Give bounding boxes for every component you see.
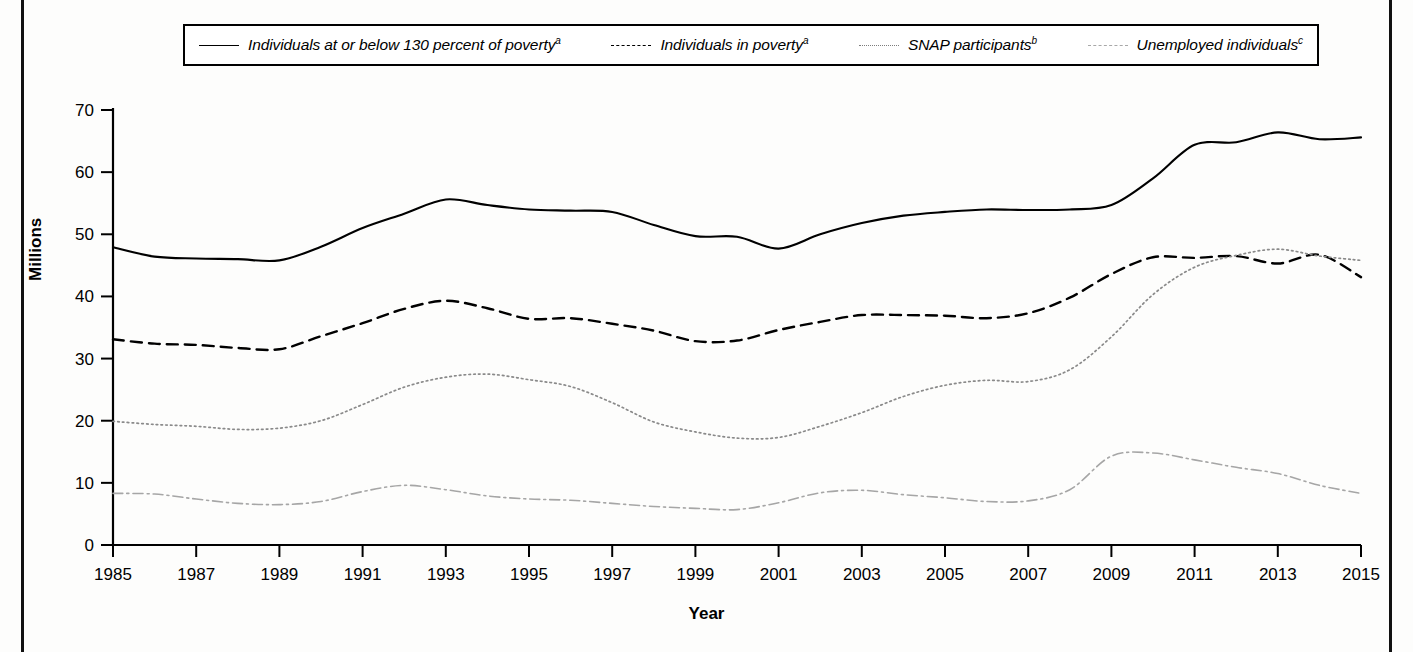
y-tick-label-0: 0 [85, 536, 94, 555]
line-dotted-icon [859, 39, 899, 51]
x-tick-label-1997: 1997 [593, 565, 631, 584]
legend-label-text-3: Unemployed individuals [1137, 37, 1299, 54]
legend-label-2: SNAP participantsb [908, 35, 1037, 54]
y-tick-label-40: 40 [75, 287, 94, 306]
legend-label-text-0: Individuals at or below 130 percent of p… [248, 37, 555, 54]
series-line-1 [113, 254, 1361, 350]
y-tick-label-10: 10 [75, 474, 94, 493]
legend-item-2: SNAP participantsb [859, 35, 1037, 54]
axis-layer: 0102030405060701985198719891991199319951… [75, 101, 1380, 584]
legend-label-text-1: Individuals in poverty [660, 37, 803, 54]
legend-label-0: Individuals at or below 130 percent of p… [248, 35, 561, 54]
series-layer [113, 132, 1361, 510]
x-tick-label-2007: 2007 [1009, 565, 1047, 584]
legend-label-1: Individuals in povertya [660, 35, 808, 54]
legend-footnote-1: a [803, 35, 808, 46]
legend-label-text-2: SNAP participants [908, 37, 1032, 54]
x-tick-label-1985: 1985 [94, 565, 132, 584]
x-tick-label-2003: 2003 [843, 565, 881, 584]
y-tick-label-30: 30 [75, 350, 94, 369]
y-tick-label-70: 70 [75, 101, 94, 120]
legend-item-0: Individuals at or below 130 percent of p… [199, 35, 561, 54]
legend-label-3: Unemployed individualsc [1137, 35, 1303, 54]
y-tick-label-50: 50 [75, 225, 94, 244]
legend-item-1: Individuals in povertya [611, 35, 808, 54]
x-tick-label-2015: 2015 [1342, 565, 1380, 584]
x-tick-label-1993: 1993 [427, 565, 465, 584]
figure-root: Individuals at or below 130 percent of p… [0, 0, 1413, 652]
legend-footnote-2: b [1032, 35, 1037, 46]
legend-item-3: Unemployed individualsc [1088, 35, 1303, 54]
x-tick-label-2009: 2009 [1092, 565, 1130, 584]
legend-footnote-3: c [1298, 35, 1303, 46]
y-tick-label-20: 20 [75, 412, 94, 431]
x-tick-label-2001: 2001 [760, 565, 798, 584]
series-line-3 [113, 452, 1361, 510]
line-dashdot-icon [1088, 39, 1128, 51]
chart-plot-area: 0102030405060701985198719891991199319951… [0, 70, 1413, 630]
x-tick-label-2005: 2005 [926, 565, 964, 584]
x-tick-label-1999: 1999 [676, 565, 714, 584]
x-tick-label-2013: 2013 [1259, 565, 1297, 584]
x-tick-label-1991: 1991 [344, 565, 382, 584]
line-solid-icon [199, 39, 239, 51]
x-tick-label-1989: 1989 [260, 565, 298, 584]
x-tick-label-1987: 1987 [177, 565, 215, 584]
line-dashed-icon [611, 39, 651, 51]
series-line-0 [113, 132, 1361, 261]
line-chart-svg: 0102030405060701985198719891991199319951… [0, 70, 1413, 630]
x-tick-label-2011: 2011 [1176, 565, 1213, 584]
x-tick-label-1995: 1995 [510, 565, 548, 584]
y-tick-label-60: 60 [75, 163, 94, 182]
chart-legend: Individuals at or below 130 percent of p… [183, 24, 1319, 66]
legend-footnote-0: a [555, 35, 560, 46]
legend-item-list: Individuals at or below 130 percent of p… [199, 35, 1303, 54]
